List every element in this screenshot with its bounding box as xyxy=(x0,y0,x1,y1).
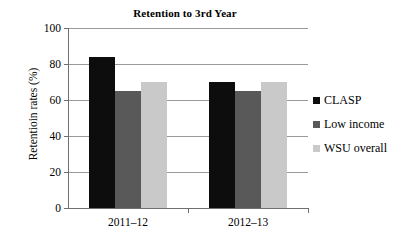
y-tick-label-20: 20 xyxy=(50,166,62,178)
y-tick-label-60: 60 xyxy=(50,94,62,106)
legend-item-low-income: Low income xyxy=(313,112,417,136)
x-tick-mark-1 xyxy=(188,208,189,213)
bar-wsu-overall-2 xyxy=(261,82,287,208)
chart-screenshot: Retention to 3rd Year Retentioin rates (… xyxy=(0,0,417,247)
bar-low-income-2 xyxy=(235,91,261,208)
legend-item-wsu-overall: WSU overall xyxy=(313,136,417,160)
legend-item-clasp: CLASP xyxy=(313,88,417,112)
bar-clasp-2 xyxy=(209,82,235,208)
legend-label: CLASP xyxy=(324,93,361,108)
y-axis-line xyxy=(68,28,69,209)
legend-swatch-icon-2 xyxy=(313,121,320,128)
y-tick-label-0: 0 xyxy=(55,202,61,214)
bar-wsu-overall-1 xyxy=(141,82,167,208)
y-tick-label-100: 100 xyxy=(44,22,61,34)
chart-legend: CLASPLow incomeWSU overall xyxy=(313,88,417,160)
bar-clasp-1 xyxy=(89,57,115,208)
x-tick-mark-2 xyxy=(308,208,309,213)
chart-title: Retention to 3rd Year xyxy=(60,7,310,19)
legend-swatch-icon-3 xyxy=(313,145,320,152)
bar-group-1 xyxy=(89,28,167,208)
y-tick-label-40: 40 xyxy=(50,130,62,142)
legend-label: WSU overall xyxy=(324,141,387,156)
bar-low-income-1 xyxy=(115,91,141,208)
plot-area: 020406080100 2011–122012–13 xyxy=(68,28,308,209)
bar-group-2 xyxy=(209,28,287,208)
x-category-label-1: 2011–12 xyxy=(68,216,188,228)
legend-swatch-icon-1 xyxy=(313,97,320,104)
y-axis-title: Retentioin rates (%) xyxy=(27,34,39,194)
x-category-label-2: 2012–13 xyxy=(188,216,308,228)
legend-label: Low income xyxy=(324,117,384,132)
y-tick-label-80: 80 xyxy=(50,58,62,70)
